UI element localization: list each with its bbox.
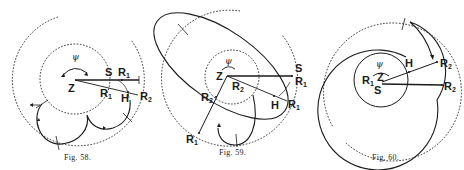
point-r1-label: R1 [362,75,374,87]
orbit-spiral [318,22,446,170]
point-r2-inner-label: R2 [232,81,244,93]
outer-dashed-arc [323,23,461,161]
point-r1-label: R1 [118,67,130,79]
point-h-label: H [271,100,279,111]
psi-label: ψ [225,57,232,66]
point-h-label: H [121,93,129,104]
epicycle-loop [37,100,130,144]
point-r2-left-label: R2 [201,92,213,104]
point-r2-bottom-label: R2 [444,81,456,93]
figure-caption: Fig. 60. [372,154,399,162]
figure-caption: Fig. 58. [64,154,91,162]
point-z-label: Z [377,72,384,83]
line-z-r2-bottom [382,84,442,85]
psi-label: ψ [72,53,79,62]
outer-dashed-arc [161,10,297,146]
outer-dashed-arc [12,17,144,146]
point-r1-right-label: R1 [295,76,307,88]
point-h-label: H [405,58,413,69]
point-s-label: S [105,67,112,78]
point-z-label: Z [216,71,223,82]
point-r1-lower-label: R1 [100,88,112,100]
psi-label: ψ [376,60,383,69]
point-s-label: S [374,85,381,96]
rotation-arrow-icon [63,68,87,75]
point-s-label: S [295,63,302,74]
rotation-arrow-icon [222,67,235,70]
point-r1-bottom-label: R1 [186,134,198,146]
figure-58 [12,17,144,150]
figure-60 [318,18,462,170]
point-r2-top-label: R2 [440,58,452,70]
point-r2-label: R2 [140,91,152,103]
figure-caption: Fig. 59. [219,149,246,157]
point-z-label: Z [68,83,75,94]
line-z-r1-bottom [199,76,227,133]
point-r1-mid-label: R1 [288,99,300,111]
